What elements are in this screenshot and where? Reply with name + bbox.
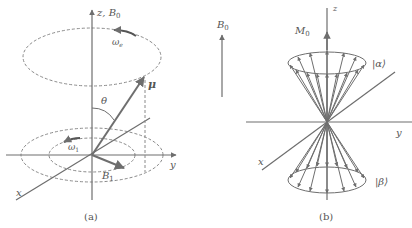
mu-label: μ [148,78,156,91]
diagram-canvas: z, B0 ωe μ θ ω1 B1 x y (a) B0 [0,0,412,228]
b1-vector [92,155,124,168]
omega-e-arrow [114,30,136,36]
panel-a: z, B0 ωe μ θ ω1 B1 x y (a) [6,7,176,222]
omega-e-label: ωe [112,37,123,48]
beta-state-label: |β⟩ [375,176,388,188]
y-axis-label: y [169,159,176,170]
alpha-spin-cone [288,32,366,122]
theta-arc [92,108,114,120]
m0-label: M0 [294,25,310,38]
x-axis-label: x [16,187,22,198]
mu-vector [92,77,144,155]
x-axis [16,118,150,200]
x-axis-label-b: x [258,156,264,167]
y-axis-label-b: y [395,127,402,138]
theta-label: θ [101,95,107,106]
caption-a: (a) [84,211,98,222]
beta-spin-cone [288,122,366,193]
z-axis-label: z, B0 [96,7,120,20]
omega-1-label: ω1 [68,142,79,153]
alpha-state-label: |α⟩ [372,58,386,70]
panel-b: B0 [216,4,412,222]
b0-label: B0 [216,19,229,32]
z-label-b: z [332,4,338,13]
x-axis-b [262,72,395,170]
caption-b: (b) [319,211,333,222]
